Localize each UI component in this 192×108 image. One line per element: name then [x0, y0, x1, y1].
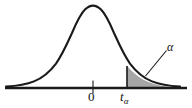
bell-curve — [6, 6, 180, 87]
alpha-area-label: α — [167, 41, 173, 53]
x-tick-label-zero: 0 — [88, 90, 95, 103]
x-tick-label-t-alpha: tα — [120, 90, 128, 106]
t-subscript-alpha: α — [124, 96, 129, 106]
alpha-leader-line — [146, 51, 167, 77]
t-distribution-figure: 0 tα α — [0, 0, 192, 108]
distribution-plot — [0, 0, 192, 108]
